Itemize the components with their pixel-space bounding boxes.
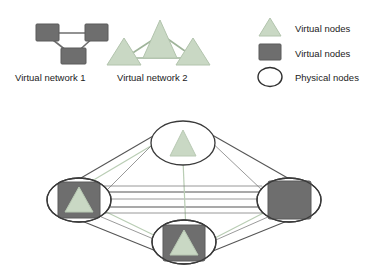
virtual-network-1-caption: Virtual network 1 — [15, 72, 86, 83]
physical-node-left[interactable] — [47, 178, 111, 222]
ellipse-icon — [258, 68, 282, 87]
physical-node-top[interactable] — [151, 121, 215, 165]
legend-label-virtual-square: Virtual nodes — [295, 48, 351, 59]
vn1-square-node-1 — [36, 24, 59, 41]
physical-node-bottom[interactable] — [152, 220, 216, 264]
legend-label-virtual-triangle: Virtual nodes — [295, 23, 351, 34]
square-icon — [259, 44, 281, 60]
virtual-network-2-caption: Virtual network 2 — [117, 72, 188, 83]
physical-node-right[interactable] — [257, 178, 321, 222]
network-embedding-figure: Virtual network 1 Virtual network 2 Virt… — [0, 0, 373, 268]
physical-node-right-virtual-square — [268, 181, 311, 219]
legend-label-physical-node: Physical nodes — [295, 72, 359, 83]
vn1-square-node-3 — [61, 48, 86, 64]
vn1-square-node-2 — [85, 24, 108, 41]
legend: Virtual nodes Virtual nodes Physical nod… — [258, 18, 359, 87]
